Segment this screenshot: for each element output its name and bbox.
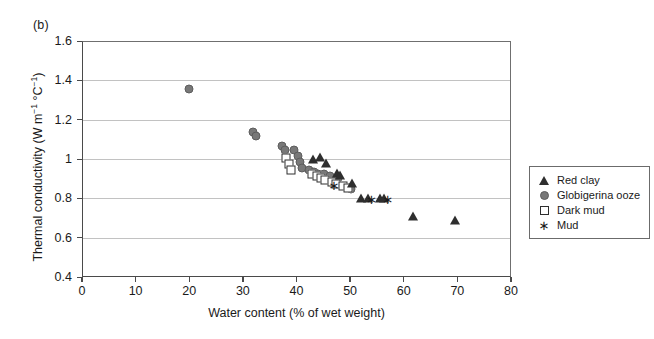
x-axis-tick-mark [457, 277, 458, 282]
x-axis-tick-mark [349, 277, 350, 282]
x-axis-tick-mark [296, 277, 297, 282]
data-point: ∗ [366, 194, 377, 205]
triangle-marker [347, 178, 357, 187]
legend-marker [537, 206, 551, 215]
data-point [408, 212, 418, 221]
scatter-chart-figure: (b) 0.40.60.811.21.41.6 0102030405060708… [0, 0, 654, 339]
circle-marker [185, 85, 194, 94]
triangle-marker [539, 176, 549, 185]
x-axis-tick-mark [135, 277, 136, 282]
data-point: ∗ [329, 179, 340, 190]
square-marker [287, 165, 296, 174]
legend-item: ∗Mud [537, 218, 640, 232]
x-axis-tick-label: 40 [290, 284, 304, 298]
triangle-marker [408, 212, 418, 221]
triangle-marker [450, 215, 460, 224]
y-axis-title-sup1: −1 [29, 104, 39, 114]
circle-marker [251, 132, 260, 141]
x-axis-title: Water content (% of wet weight) [82, 306, 511, 320]
y-axis-title-sup2: −1 [29, 77, 39, 87]
data-point [321, 158, 331, 167]
x-axis-tick-mark [189, 277, 190, 282]
x-axis-tick-label: 30 [236, 284, 250, 298]
data-point [251, 132, 260, 141]
y-axis-title-mid: °C [31, 86, 45, 104]
asterisk-marker: ∗ [329, 179, 340, 190]
x-axis-tick-label: 70 [450, 284, 464, 298]
x-axis-tick-label: 20 [182, 284, 196, 298]
x-axis-tick-mark [403, 277, 404, 282]
x-axis-tick-label: 60 [397, 284, 411, 298]
legend-item: Globigerina ooze [537, 188, 640, 202]
legend-label: Globigerina ooze [557, 189, 640, 201]
x-axis-tick-label: 10 [129, 284, 143, 298]
legend-item: Red clay [537, 173, 640, 187]
legend-label: Dark mud [557, 204, 605, 216]
legend-marker [537, 191, 551, 200]
legend-marker: ∗ [537, 220, 551, 231]
data-point: ∗ [382, 194, 393, 205]
y-axis-title-suffix: ) [31, 73, 45, 77]
chart-legend: Red clayGlobigerina oozeDark mud∗Mud [529, 166, 650, 239]
asterisk-marker: ∗ [366, 194, 377, 205]
asterisk-marker: ∗ [382, 194, 393, 205]
data-point [450, 215, 460, 224]
data-point [185, 85, 194, 94]
legend-marker [537, 176, 551, 185]
x-axis-tick-mark [242, 277, 243, 282]
x-axis-tick-label: 50 [343, 284, 357, 298]
square-marker [540, 206, 549, 215]
circle-marker [540, 191, 549, 200]
asterisk-marker: ∗ [539, 220, 550, 231]
y-axis-title-prefix: Thermal conductivity (W m [31, 114, 45, 262]
data-point [347, 178, 357, 187]
x-axis-tick-mark [81, 277, 82, 282]
x-axis-tick-mark [510, 277, 511, 282]
triangle-marker [321, 158, 331, 167]
data-point [287, 165, 296, 174]
x-axis-tick-label: 80 [504, 284, 518, 298]
y-axis-title: Thermal conductivity (W m−1 °C−1) [29, 42, 45, 292]
legend-item: Dark mud [537, 203, 640, 217]
legend-label: Red clay [557, 174, 600, 186]
x-axis-tick-label: 0 [79, 284, 86, 298]
legend-label: Mud [557, 219, 578, 231]
panel-label: (b) [33, 18, 49, 32]
